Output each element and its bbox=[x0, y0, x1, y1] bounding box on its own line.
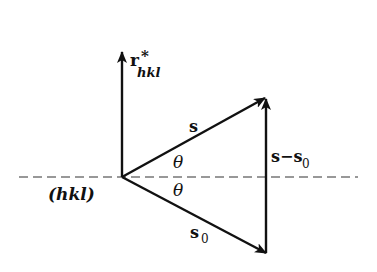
plane-label: (hkl) bbox=[48, 184, 95, 204]
scattered-vector-arrow bbox=[122, 98, 265, 177]
bragg-diagram: r * hkl s θ θ (hkl) s 0 s−s 0 bbox=[0, 0, 377, 272]
incident-vector-subscript: 0 bbox=[201, 232, 209, 246]
reciprocal-vector-subscript: hkl bbox=[137, 65, 160, 80]
difference-vector-subscript: 0 bbox=[302, 157, 310, 171]
lower-angle-label: θ bbox=[173, 180, 183, 200]
upper-angle-label: θ bbox=[173, 152, 183, 172]
incident-vector-label: s bbox=[190, 223, 199, 242]
difference-vector-label: s−s bbox=[271, 147, 302, 166]
scattered-vector-label: s bbox=[189, 117, 198, 136]
reciprocal-vector-superscript: * bbox=[141, 47, 149, 65]
